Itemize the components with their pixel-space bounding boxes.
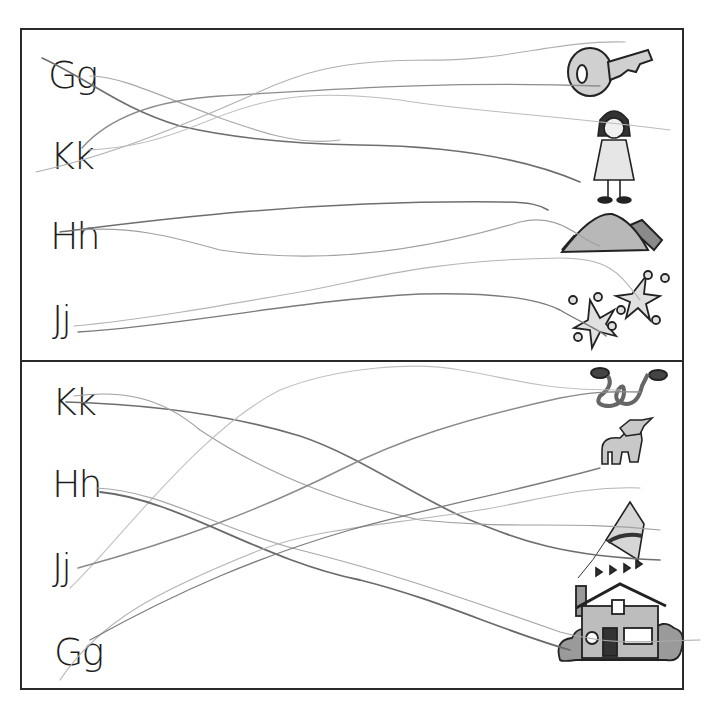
pencil-line bbox=[80, 220, 600, 256]
pencil-lines-layer bbox=[0, 0, 706, 704]
pencil-line bbox=[60, 202, 548, 232]
pencil-line bbox=[74, 394, 660, 530]
pencil-line bbox=[42, 58, 580, 182]
pencil-line bbox=[60, 488, 640, 680]
pencil-line bbox=[90, 76, 340, 141]
pencil-line bbox=[74, 258, 640, 326]
pencil-line bbox=[96, 488, 700, 642]
pencil-line bbox=[36, 42, 625, 172]
pencil-line bbox=[70, 366, 620, 588]
pencil-line bbox=[100, 492, 570, 650]
pencil-line bbox=[90, 468, 600, 640]
pencil-line bbox=[66, 402, 660, 560]
pencil-line bbox=[78, 294, 606, 336]
pencil-line bbox=[88, 95, 670, 150]
